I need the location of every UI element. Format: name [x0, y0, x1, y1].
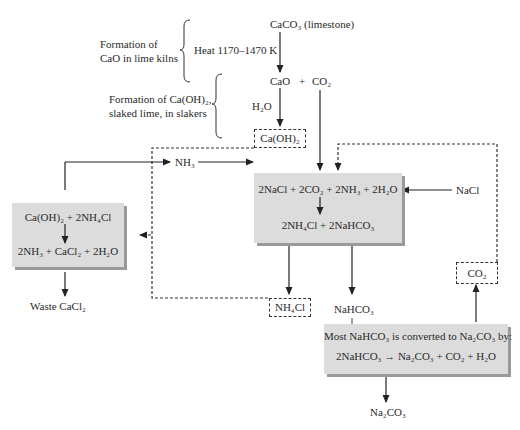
- left-box-reactants: Ca(OH)₂ + 2NH₄Cl: [12, 211, 124, 224]
- bottom-box-line1: Most NaHCO₃ is converted to Na₂CO₃ by:: [324, 330, 508, 343]
- nh4cl-box: NH₄Cl: [269, 298, 311, 317]
- nahco3-label: NaHCO₃: [334, 303, 374, 316]
- waste-cacl2-label: Waste CaCl₂: [30, 300, 86, 313]
- cao-formation-line2: CaO in lime kilns: [100, 52, 178, 65]
- nh3-label: NH₃: [175, 156, 195, 169]
- caoh2-formation-line2: slaked lime, in slakers: [109, 107, 207, 120]
- calcination-box: Most NaHCO₃ is converted to Na₂CO₃ by: 2…: [324, 324, 508, 374]
- bottom-box-line2: 2NaHCO₃ → Na₂CO₃ + CO₂ + H₂O: [324, 350, 508, 363]
- nacl-label: NaCl: [456, 184, 479, 197]
- caoh2-formation-line1: Formation of Ca(OH)₂,: [109, 93, 212, 106]
- na2co3-label: Na₂CO₃: [370, 406, 406, 419]
- caco3-label: CaCO₃ (limestone): [270, 18, 354, 31]
- center-box-reactants: 2NaCl + 2CO₂ + 2NH₃ + 2H₂O: [254, 183, 402, 196]
- co2-label: CO₂: [312, 75, 331, 88]
- heat-label: Heat 1170–1470 K: [194, 44, 277, 57]
- carbonation-tower-box: 2NaCl + 2CO₂ + 2NH₃ + 2H₂O 2NH₄Cl + 2NaH…: [254, 173, 402, 243]
- left-box-products: 2NH₃ + CaCl₂ + 2H₂O: [12, 245, 124, 258]
- cao-label: CaO: [270, 75, 290, 88]
- caoh2-box: Ca(OH)₂: [254, 129, 306, 148]
- ammonia-recovery-box: Ca(OH)₂ + 2NH₄Cl 2NH₃ + CaCl₂ + 2H₂O: [12, 203, 124, 267]
- cao-formation-line1: Formation of: [100, 38, 158, 51]
- center-box-products: 2NH₄Cl + 2NaHCO₃: [254, 219, 402, 232]
- plus-sign: +: [299, 75, 305, 88]
- h2o-label: H₂O: [252, 100, 272, 113]
- co2-recycle-box: CO₂: [456, 262, 498, 284]
